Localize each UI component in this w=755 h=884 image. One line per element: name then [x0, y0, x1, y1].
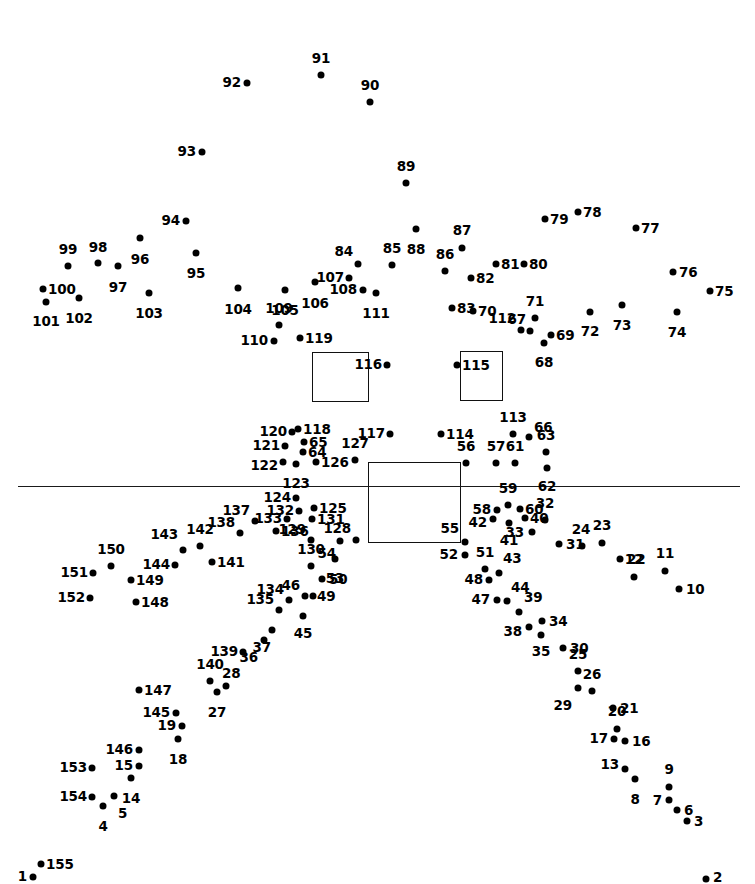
dot-104[interactable] — [235, 285, 242, 292]
dot-17[interactable] — [611, 736, 618, 743]
dot-22[interactable] — [617, 556, 624, 563]
dot-117[interactable] — [387, 431, 394, 438]
dot-62[interactable] — [544, 465, 551, 472]
dot-37[interactable] — [269, 627, 276, 634]
dot-38[interactable] — [526, 624, 533, 631]
dot-85[interactable] — [389, 262, 396, 269]
dot-31[interactable] — [556, 541, 563, 548]
dot-7[interactable] — [666, 797, 673, 804]
dot-4[interactable] — [100, 803, 107, 810]
dot-74[interactable] — [674, 309, 681, 316]
dot-81[interactable] — [493, 261, 500, 268]
dot-124[interactable] — [293, 495, 300, 502]
dot-72[interactable] — [587, 309, 594, 316]
dot-135[interactable] — [276, 607, 283, 614]
dot-109[interactable] — [276, 322, 283, 329]
dot-155[interactable] — [38, 861, 45, 868]
dot-95[interactable] — [193, 250, 200, 257]
dot-2[interactable] — [703, 876, 710, 883]
dot-82[interactable] — [468, 275, 475, 282]
dot-54[interactable] — [337, 538, 344, 545]
dot-27[interactable] — [214, 689, 221, 696]
dot-33[interactable] — [529, 529, 536, 536]
dot-136[interactable] — [273, 528, 280, 535]
dot-68[interactable] — [541, 340, 548, 347]
dot-101[interactable] — [43, 299, 50, 306]
dot-100[interactable] — [40, 286, 47, 293]
dot-147[interactable] — [136, 687, 143, 694]
dot-120[interactable] — [289, 429, 296, 436]
dot-102[interactable] — [76, 295, 83, 302]
dot-44[interactable] — [504, 598, 511, 605]
dot-139[interactable] — [240, 649, 247, 656]
dot-76[interactable] — [670, 269, 677, 276]
dot-90[interactable] — [367, 99, 374, 106]
dot-57[interactable] — [493, 460, 500, 467]
dot-118[interactable] — [295, 426, 302, 433]
dot-121[interactable] — [282, 443, 289, 450]
dot-73[interactable] — [619, 302, 626, 309]
dot-20[interactable] — [614, 726, 621, 733]
dot-75[interactable] — [707, 288, 714, 295]
dot-113[interactable] — [510, 431, 517, 438]
dot-51[interactable] — [482, 566, 489, 573]
dot-115[interactable] — [454, 362, 461, 369]
dot-103[interactable] — [146, 290, 153, 297]
dot-98[interactable] — [95, 260, 102, 267]
dot-133[interactable] — [284, 516, 291, 523]
dot-45[interactable] — [300, 613, 307, 620]
dot-80[interactable] — [521, 261, 528, 268]
dot-58[interactable] — [494, 507, 501, 514]
dot-11[interactable] — [662, 568, 669, 575]
dot-149[interactable] — [128, 577, 135, 584]
dot-43[interactable] — [496, 570, 503, 577]
dot-94[interactable] — [183, 218, 190, 225]
dot-18[interactable] — [175, 736, 182, 743]
dot-131[interactable] — [309, 516, 316, 523]
dot-84[interactable] — [355, 261, 362, 268]
dot-64[interactable] — [300, 449, 307, 456]
dot-99[interactable] — [65, 263, 72, 270]
dot-137[interactable] — [252, 518, 259, 525]
dot-128[interactable] — [353, 537, 360, 544]
dot-154[interactable] — [89, 794, 96, 801]
dot-140[interactable] — [207, 678, 214, 685]
dot-92[interactable] — [244, 80, 251, 87]
dot-79[interactable] — [542, 216, 549, 223]
dot-114[interactable] — [438, 431, 445, 438]
dot-5[interactable] — [111, 793, 118, 800]
dot-144[interactable] — [172, 562, 179, 569]
dot-34[interactable] — [539, 618, 546, 625]
dot-87[interactable] — [459, 245, 466, 252]
dot-46[interactable] — [302, 593, 309, 600]
dot-110[interactable] — [271, 338, 278, 345]
dot-28[interactable] — [223, 683, 230, 690]
dot-134[interactable] — [286, 597, 293, 604]
dot-19[interactable] — [179, 723, 186, 730]
dot-142[interactable] — [197, 543, 204, 550]
dot-111[interactable] — [373, 290, 380, 297]
dot-153[interactable] — [89, 765, 96, 772]
dot-132[interactable] — [296, 508, 303, 515]
dot-67[interactable] — [527, 328, 534, 335]
dot-151[interactable] — [90, 570, 97, 577]
dot-60[interactable] — [517, 506, 524, 513]
dot-9[interactable] — [666, 784, 673, 791]
dot-21[interactable] — [610, 705, 617, 712]
dot-119[interactable] — [297, 335, 304, 342]
dot-69[interactable] — [548, 332, 555, 339]
dot-143[interactable] — [180, 547, 187, 554]
dot-13[interactable] — [622, 766, 629, 773]
dot-130[interactable] — [308, 563, 315, 570]
dot-55[interactable] — [462, 539, 469, 546]
dot-66[interactable] — [526, 434, 533, 441]
dot-47[interactable] — [494, 597, 501, 604]
dot-138[interactable] — [237, 530, 244, 537]
dot-77[interactable] — [633, 225, 640, 232]
dot-16[interactable] — [622, 738, 629, 745]
dot-63[interactable] — [543, 449, 550, 456]
dot-41[interactable] — [506, 520, 513, 527]
dot-30[interactable] — [560, 645, 567, 652]
dot-146[interactable] — [136, 747, 143, 754]
dot-97[interactable] — [115, 263, 122, 270]
